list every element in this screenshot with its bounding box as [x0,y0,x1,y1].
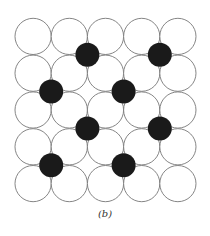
interstitial-atom-circle [39,80,63,104]
figure-caption: (b) [0,208,210,219]
host-atom-circle [160,166,196,202]
interstitial-atom-circle [75,116,99,140]
interstitial-atom-circle [148,43,172,67]
lattice-diagram [0,0,210,236]
interstitial-atom-circle [112,80,136,104]
interstitial-atom-circle [112,153,136,177]
interstitial-atom-circle [148,116,172,140]
interstitial-atom-circle [75,43,99,67]
host-atom-circle [15,18,51,54]
interstitial-atom-circle [39,153,63,177]
host-atom-layer [15,18,196,201]
